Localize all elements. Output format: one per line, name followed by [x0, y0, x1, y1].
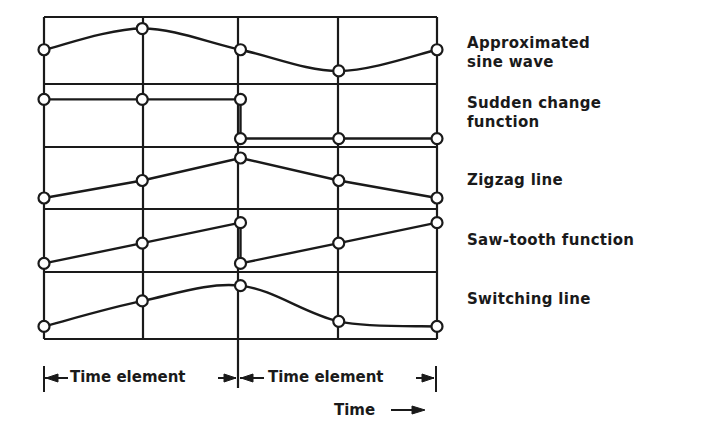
data-point-2-0-2 — [235, 153, 246, 164]
nodes — [39, 23, 443, 332]
data-point-4-0-0 — [39, 321, 50, 332]
data-point-0-0-1 — [137, 23, 148, 34]
data-point-3-0-1 — [137, 238, 148, 249]
data-point-0-0-4 — [432, 44, 443, 55]
data-point-2-0-1 — [137, 175, 148, 186]
arrow-head-2 — [224, 374, 236, 382]
data-point-4-0-4 — [432, 321, 443, 332]
data-point-0-0-3 — [333, 65, 344, 76]
data-point-4-0-3 — [333, 316, 344, 327]
series-label-0: Approximated sine wave — [467, 34, 590, 72]
data-point-3-1-1 — [333, 238, 344, 249]
interval-label-2: Time element — [268, 368, 384, 386]
data-point-2-0-3 — [333, 175, 344, 186]
data-point-3-1-2 — [432, 217, 443, 228]
data-point-1-0-1 — [137, 94, 148, 105]
data-point-4-0-2 — [235, 280, 246, 291]
data-point-3-1-0 — [235, 258, 246, 269]
grid — [44, 17, 437, 388]
data-point-0-0-0 — [39, 44, 50, 55]
arrow-head-4 — [422, 374, 434, 382]
data-point-2-0-0 — [39, 193, 50, 204]
data-point-1-1-0 — [235, 133, 246, 144]
data-point-2-0-4 — [432, 193, 443, 204]
series-label-3: Saw-tooth function — [467, 231, 634, 250]
data-point-0-0-2 — [235, 44, 246, 55]
arrow-head-1 — [46, 374, 58, 382]
data-point-4-0-1 — [137, 295, 148, 306]
data-point-1-0-2 — [235, 94, 246, 105]
data-point-1-1-1 — [333, 133, 344, 144]
data-point-1-1-2 — [432, 133, 443, 144]
data-point-1-0-0 — [39, 94, 50, 105]
data-point-3-0-0 — [39, 258, 50, 269]
time-arrow-head — [412, 406, 425, 414]
arrow-head-3 — [241, 374, 253, 382]
series-label-2: Zigzag line — [467, 171, 563, 190]
time-axis-label: Time — [334, 401, 375, 419]
series-label-1: Sudden change function — [467, 94, 601, 132]
data-point-3-0-2 — [235, 217, 246, 228]
interval-label-1: Time element — [70, 368, 186, 386]
series-label-4: Switching line — [467, 290, 591, 309]
